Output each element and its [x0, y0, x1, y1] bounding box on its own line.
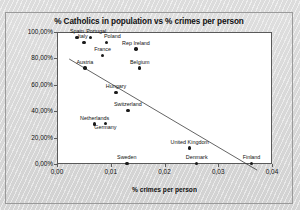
data-point [134, 47, 137, 50]
data-point-label: Switzerland [114, 101, 142, 107]
y-tick-label: 80,00% [3, 54, 53, 61]
x-tick-mark [272, 164, 273, 167]
x-tick-label: 0,04 [257, 168, 287, 175]
data-point [188, 146, 191, 149]
data-point-label: Belgium [130, 59, 149, 65]
y-tick-label: 40,00% [3, 107, 53, 114]
y-tick-label: 20,00% [3, 134, 53, 141]
x-tick-mark [111, 164, 112, 167]
data-point-label: Netherlands [80, 115, 109, 121]
data-point-label: Germany [94, 124, 116, 130]
x-tick-label: 0,00 [42, 168, 72, 175]
data-point-label: France [94, 46, 111, 52]
x-axis-label: % crimes per person [57, 186, 272, 193]
y-tick-label: 100,00% [3, 28, 53, 35]
data-point [82, 41, 85, 44]
chart-screenshot: % Catholics in population vs % crimes pe… [0, 0, 300, 210]
data-point [105, 41, 108, 44]
x-tick-mark [165, 164, 166, 167]
data-point [114, 91, 117, 94]
data-point-label: United Kingdom [171, 139, 209, 145]
data-point [83, 66, 86, 69]
data-point-label: Poland [104, 33, 121, 39]
trendline [58, 33, 271, 163]
data-point-label: Finland [243, 154, 261, 160]
y-tick-label: 60,00% [3, 81, 53, 88]
data-point-label: Sweden [117, 154, 136, 160]
x-tick-label: 0,01 [96, 168, 126, 175]
data-point-label: Italy [78, 33, 88, 39]
x-tick-mark [57, 164, 58, 167]
x-tick-mark [218, 164, 219, 167]
y-tick-label: 0,00% [3, 160, 53, 167]
x-tick-label: 0,02 [150, 168, 180, 175]
data-point-label: Hungary [106, 83, 126, 89]
data-point [126, 109, 129, 112]
plot-area: SpainPortugalItalyPolandRep IrelandFranc… [57, 32, 272, 164]
plot-inner: SpainPortugalItalyPolandRep IrelandFranc… [58, 33, 271, 163]
x-tick-label: 0,03 [203, 168, 233, 175]
data-point-label: Denmark [186, 154, 208, 160]
data-point [125, 162, 128, 165]
data-point-label: Rep Ireland [122, 40, 150, 46]
data-point-label: Austria [76, 59, 93, 65]
